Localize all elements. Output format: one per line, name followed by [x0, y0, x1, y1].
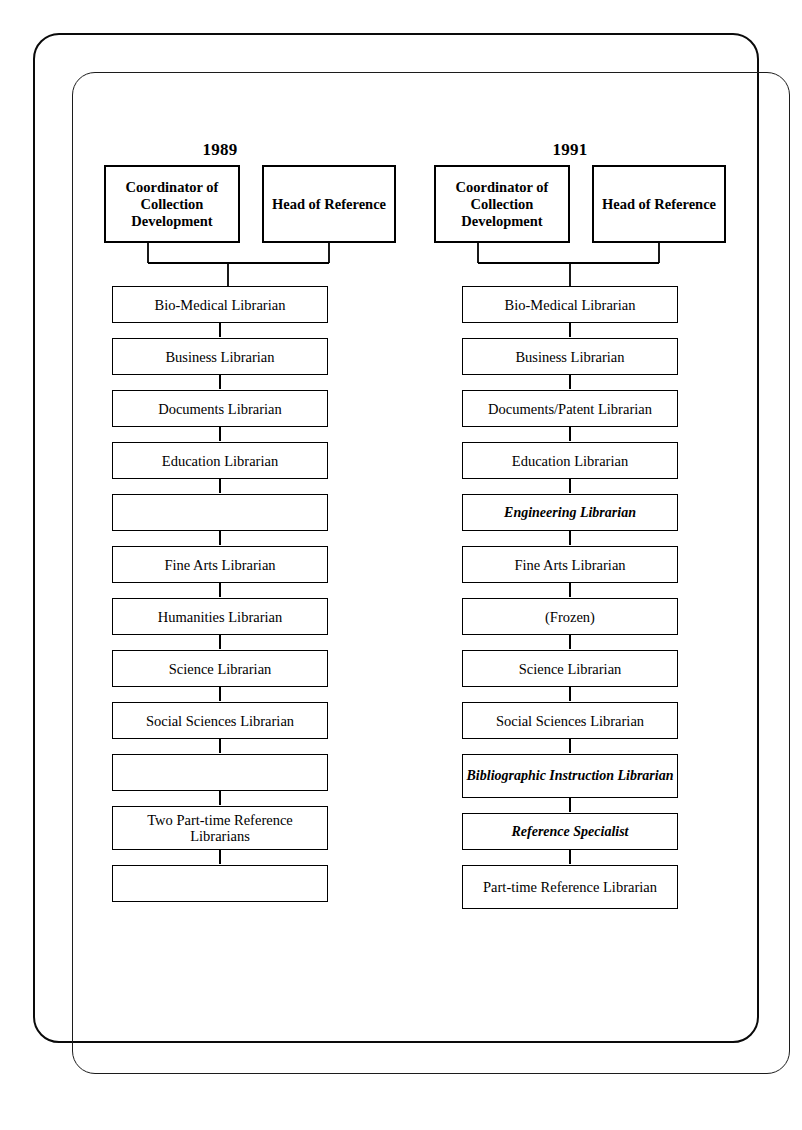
box-education-librarian[interactable]: Education Librarian [462, 442, 678, 479]
box-head-of-reference[interactable]: Head of Reference [262, 165, 396, 243]
box-coordinator-of-collection-development[interactable]: Coordinator of Collection Development [434, 165, 570, 243]
year-label-1989: 1989 [112, 140, 328, 160]
box-education-librarian[interactable]: Education Librarian [112, 442, 328, 479]
box-humanities-librarian[interactable]: Humanities Librarian [112, 598, 328, 635]
box-bio-medical-librarian[interactable]: Bio-Medical Librarian [462, 286, 678, 323]
box-bibliographic-instruction-librarian[interactable]: Bibliographic Instruction Librarian [462, 754, 678, 798]
box-label: Two Part-time Reference Librarians [116, 812, 324, 844]
box-part-time-reference-librarian[interactable]: Part-time Reference Librarian [462, 865, 678, 909]
box-fine-arts-librarian[interactable]: Fine Arts Librarian [112, 546, 328, 583]
box-label: Social Sciences Librarian [466, 713, 674, 729]
box-label: Coordinator of Collection Development [439, 179, 565, 230]
box-label: Head of Reference [272, 196, 386, 213]
box-label: Social Sciences Librarian [116, 713, 324, 729]
box-label: Science Librarian [116, 661, 324, 677]
box-label: Documents/Patent Librarian [466, 401, 674, 417]
box-label: Bibliographic Instruction Librarian [466, 768, 674, 784]
box-label: Engineering Librarian [466, 505, 674, 521]
box-social-sciences-librarian[interactable]: Social Sciences Librarian [462, 702, 678, 739]
box-label: Bio-Medical Librarian [466, 297, 674, 313]
head-connector-1991 [434, 243, 734, 291]
box-label: Business Librarian [466, 349, 674, 365]
head-row-1989: Coordinator of Collection Development He… [104, 165, 394, 243]
box-engineering-librarian[interactable]: Engineering Librarian [462, 494, 678, 531]
box-empty-slot-3[interactable] [112, 865, 328, 902]
head-connector-1989 [104, 243, 404, 291]
year-label-1991: 1991 [462, 140, 678, 160]
org-stack-1991: Bio-Medical Librarian Business Librarian… [462, 286, 678, 909]
org-stack-1989: Bio-Medical Librarian Business Librarian… [112, 286, 328, 902]
box-label: Science Librarian [466, 661, 674, 677]
box-business-librarian[interactable]: Business Librarian [112, 338, 328, 375]
box-science-librarian[interactable]: Science Librarian [462, 650, 678, 687]
box-business-librarian[interactable]: Business Librarian [462, 338, 678, 375]
box-coordinator-of-collection-development[interactable]: Coordinator of Collection Development [104, 165, 240, 243]
box-documents-librarian[interactable]: Documents Librarian [112, 390, 328, 427]
box-head-of-reference[interactable]: Head of Reference [592, 165, 726, 243]
box-empty-slot-2[interactable] [112, 754, 328, 791]
box-label: Education Librarian [466, 453, 674, 469]
box-social-sciences-librarian[interactable]: Social Sciences Librarian [112, 702, 328, 739]
box-label: Business Librarian [116, 349, 324, 365]
box-frozen-position[interactable]: (Frozen) [462, 598, 678, 635]
box-empty-slot-1[interactable] [112, 494, 328, 531]
box-bio-medical-librarian[interactable]: Bio-Medical Librarian [112, 286, 328, 323]
box-label: Part-time Reference Librarian [466, 879, 674, 895]
box-science-librarian[interactable]: Science Librarian [112, 650, 328, 687]
box-label: Fine Arts Librarian [116, 557, 324, 573]
organization-chart: 1989 Coordinator of Collection Developme… [0, 0, 802, 1130]
box-label: Documents Librarian [116, 401, 324, 417]
box-label: (Frozen) [466, 609, 674, 625]
box-label: Education Librarian [116, 453, 324, 469]
box-label: Reference Specialist [466, 824, 674, 840]
head-row-1991: Coordinator of Collection Development He… [434, 165, 724, 243]
box-documents-patent-librarian[interactable]: Documents/Patent Librarian [462, 390, 678, 427]
box-fine-arts-librarian[interactable]: Fine Arts Librarian [462, 546, 678, 583]
box-label: Bio-Medical Librarian [116, 297, 324, 313]
box-label: Head of Reference [602, 196, 716, 213]
box-two-part-time-reference-librarians[interactable]: Two Part-time Reference Librarians [112, 806, 328, 850]
box-reference-specialist[interactable]: Reference Specialist [462, 813, 678, 850]
box-label: Humanities Librarian [116, 609, 324, 625]
box-label: Fine Arts Librarian [466, 557, 674, 573]
box-label: Coordinator of Collection Development [109, 179, 235, 230]
